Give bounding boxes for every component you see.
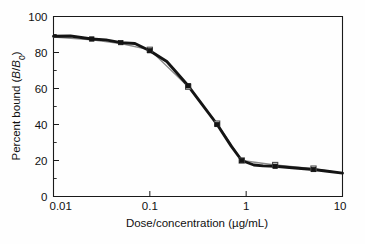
marker-filled-square [186,84,190,88]
x-tick-label: 0.1 [142,200,158,212]
y-tick-label: 40 [35,119,48,131]
y-tick-label: 20 [35,155,48,167]
marker-filled-square [240,158,244,162]
marker-filled-square [119,40,123,44]
x-tick-label: 1 [243,200,249,212]
dose-response-chart: 020406080100 0.010.1110 Dose/concentrati… [0,0,365,244]
marker-filled-square [273,164,277,168]
y-tick-label: 60 [35,83,48,95]
marker-filled-square [215,122,219,126]
y-axis-title-suffix: ) [10,51,22,55]
x-axis-title: Dose/concentration (µg/mL) [126,217,268,229]
x-tick-label: 10 [334,200,347,212]
chart-figure: 020406080100 0.010.1110 Dose/concentrati… [0,0,365,244]
x-tick-label: 0.01 [50,200,72,212]
y-tick-label: 0 [41,191,47,203]
y-tick-label: 80 [35,47,48,59]
marker-filled-square [90,37,94,41]
marker-filled-square [311,167,315,171]
marker-filled-square [148,49,152,53]
y-axis-title-prefix: Percent bound ( [10,78,22,160]
y-tick-label: 100 [28,11,47,23]
